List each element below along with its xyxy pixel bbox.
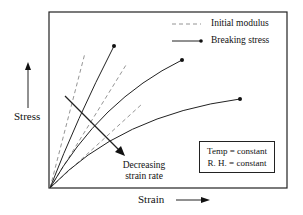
conditions-box: Temp = constant R. H. = constant [199,141,275,173]
legend-initial-modulus-label: Initial modulus [211,18,269,29]
break-point-3 [238,97,242,101]
breaking-stress-points [112,44,242,101]
legend-breaking-stress-label: Breaking stress [211,35,269,46]
initial-modulus-line-1 [50,53,85,188]
break-point-1 [112,44,116,48]
condition-temp: Temp = constant [200,145,274,157]
diagram-canvas [0,0,303,215]
condition-rh: R. H. = constant [200,157,274,169]
x-axis-label: Strain [138,193,164,205]
arrow-right-icon [201,197,210,203]
curve-fast [50,46,114,188]
strain-rate-label: Decreasing strain rate [121,160,167,182]
strain-rate-label-line1: Decreasing [121,160,167,171]
break-point-2 [180,58,184,62]
legend-dot-icon [199,39,203,43]
arrow-up-icon [25,62,31,70]
y-axis-label: Stress [14,110,40,122]
strain-rate-arrow-line [65,96,121,152]
strain-rate-label-line2: strain rate [121,171,167,182]
